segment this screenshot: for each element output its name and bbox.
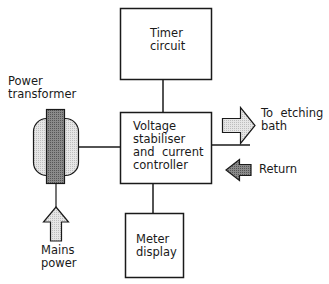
return-arrow-icon bbox=[226, 160, 251, 181]
to-etching-bath-label: To etching bath bbox=[261, 107, 323, 133]
transformer-core bbox=[47, 110, 65, 184]
mains-power-arrow-icon bbox=[44, 207, 69, 241]
meter-display-label: Meter display bbox=[136, 233, 177, 259]
transformer-label-line2: transformer bbox=[8, 88, 76, 101]
to-etching-arrow-icon bbox=[223, 108, 256, 144]
controller-label-line4: controller bbox=[133, 159, 203, 172]
mains-power-label: Mains power bbox=[41, 244, 77, 270]
etching-label-line2: bath bbox=[261, 120, 323, 133]
timer-label-line2: circuit bbox=[150, 40, 185, 53]
controller-label: Voltage stabiliser and current controlle… bbox=[133, 120, 203, 172]
meter-label-line2: display bbox=[136, 246, 177, 259]
timer-circuit-label: Timer circuit bbox=[150, 27, 185, 53]
power-transformer-label: Power transformer bbox=[8, 75, 76, 101]
return-label: Return bbox=[259, 163, 297, 176]
mains-label-line2: power bbox=[41, 257, 77, 270]
